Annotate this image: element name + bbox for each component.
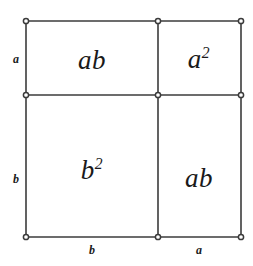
vertex-dot xyxy=(238,234,243,239)
cell-label-bottom-left: b2 xyxy=(81,157,103,184)
edge-label-left-top: a xyxy=(13,53,19,65)
cell-label-bottom-left-exponent: 2 xyxy=(95,155,103,172)
cell-label-top-right-exponent: 2 xyxy=(202,44,210,61)
vertex-dot xyxy=(238,92,243,97)
vertex-dot xyxy=(23,92,28,97)
vertex-dot xyxy=(155,234,160,239)
cell-label-top-right: a2 xyxy=(188,46,210,73)
cell-label-top-right-base: a xyxy=(188,44,202,74)
edge-label-bottom-right: a xyxy=(196,244,202,256)
edge-label-left-bottom: b xyxy=(13,173,19,185)
diagram-canvas xyxy=(0,0,253,266)
cell-label-bottom-left-base: b xyxy=(81,155,95,185)
cell-label-top-left: ab xyxy=(78,47,106,74)
vertex-dot xyxy=(155,18,160,23)
vertex-dot xyxy=(238,18,243,23)
algebra-area-diagram: ab a2 b2 ab a b b a xyxy=(0,0,253,266)
cell-label-bottom-right: ab xyxy=(185,165,213,192)
vertex-dot xyxy=(23,234,28,239)
edge-label-bottom-left: b xyxy=(89,244,95,256)
vertex-dot xyxy=(23,18,28,23)
vertex-dot xyxy=(155,92,160,97)
